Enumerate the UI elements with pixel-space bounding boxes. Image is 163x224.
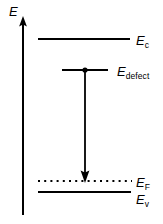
band-diagram-figure: E Ec Edefect EF Ev bbox=[0, 0, 163, 224]
valence-band-label-sub: v bbox=[145, 199, 149, 209]
defect-level-label-base: E bbox=[117, 64, 126, 79]
conduction-band-label: Ec bbox=[136, 32, 149, 48]
energy-axis bbox=[19, 16, 27, 215]
defect-level-label: Edefect bbox=[117, 63, 149, 79]
valence-band-label-base: E bbox=[136, 192, 145, 207]
conduction-band-label-base: E bbox=[136, 33, 145, 48]
defect-to-fermi-transition-arrow bbox=[81, 70, 90, 183]
valence-band-label: Ev bbox=[136, 191, 149, 207]
energy-axis-label-base: E bbox=[9, 4, 18, 19]
defect-level-label-sub: defect bbox=[126, 71, 150, 81]
fermi-level-label-base: E bbox=[136, 175, 145, 190]
energy-axis-label: E bbox=[9, 3, 18, 19]
fermi-level-label: EF bbox=[136, 174, 150, 190]
conduction-band-label-sub: c bbox=[145, 40, 149, 50]
fermi-level-label-sub: F bbox=[145, 182, 150, 192]
